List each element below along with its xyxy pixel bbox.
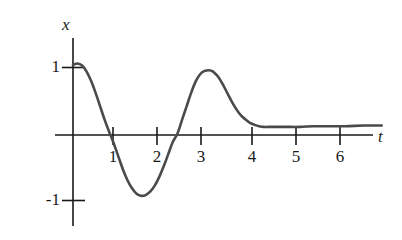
x-tick-label-2: 2 — [148, 148, 166, 165]
x-tick-label-6: 6 — [331, 148, 349, 165]
data-curve-x-of-t — [73, 63, 382, 195]
x-axis-title: t — [378, 128, 383, 145]
x-tick-marks — [113, 127, 340, 145]
x-tick-label-5: 5 — [287, 148, 305, 165]
x-tick-label-3: 3 — [192, 148, 210, 165]
axes-group — [55, 38, 373, 226]
y-tick-label-1: 1 — [36, 58, 60, 75]
plot-area — [0, 0, 402, 240]
x-tick-label-1: 1 — [104, 148, 122, 165]
y-tick-label-minus-1: -1 — [22, 191, 60, 208]
x-tick-label-4: 4 — [243, 148, 261, 165]
y-axis-title: x — [62, 16, 70, 33]
figure-canvas: x t 1 -1 1 2 3 4 5 6 — [0, 0, 402, 240]
